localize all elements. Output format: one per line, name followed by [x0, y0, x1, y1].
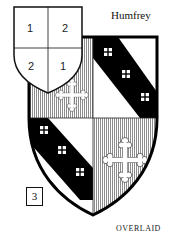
key-quarter-1: 1: [27, 22, 33, 34]
key-quarter-2: 2: [62, 22, 68, 34]
footer-text: OVERLAID: [116, 224, 161, 231]
key-quarter-4: 1: [60, 60, 66, 72]
family-name-label: Humfrey: [111, 9, 151, 21]
key-quarter-3: 2: [28, 60, 34, 72]
figure-number-box: 3: [26, 187, 43, 206]
